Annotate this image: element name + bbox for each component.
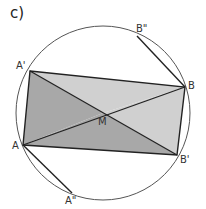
- panel-label: c): [10, 4, 24, 22]
- diagram-canvas: [0, 0, 206, 209]
- label-a-prime: A': [16, 61, 26, 71]
- label-b: B: [188, 81, 195, 91]
- label-m: M: [98, 117, 107, 127]
- label-b-prime: B': [180, 155, 190, 165]
- label-a-double-prime: A": [65, 196, 76, 206]
- label-a: A: [12, 141, 19, 151]
- geometry-figure: c) A' B B' A M B" A": [0, 0, 206, 209]
- segment-a-adoubleprime: [23, 145, 72, 193]
- segment-b-bdoubleprime: [137, 36, 185, 87]
- label-b-double-prime: B": [136, 24, 147, 34]
